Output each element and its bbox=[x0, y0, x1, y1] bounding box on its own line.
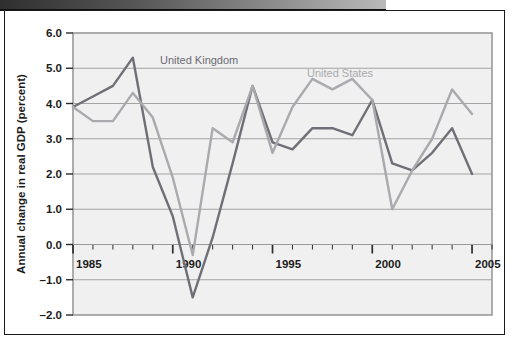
x-tick-label: 1985 bbox=[76, 258, 102, 270]
figure-root: 6.05.04.03.02.01.00.0–1.0–2.0 1985199019… bbox=[0, 0, 516, 344]
y-tick-label: 6.0 bbox=[46, 27, 62, 39]
x-tick-label: 1995 bbox=[276, 258, 302, 270]
y-axis-tick-labels: 6.05.04.03.02.01.00.0–1.0–2.0 bbox=[40, 27, 62, 321]
y-tick-label: 2.0 bbox=[46, 168, 62, 180]
y-tick-label: 5.0 bbox=[46, 62, 62, 74]
y-axis-ticks bbox=[66, 33, 73, 315]
x-tick-label: 2000 bbox=[375, 258, 401, 270]
x-tick-label: 2005 bbox=[475, 258, 501, 270]
y-tick-label: 4.0 bbox=[46, 98, 62, 110]
y-axis-title: Annual change in real GDP (percent) bbox=[15, 74, 27, 274]
x-tick-label: 1990 bbox=[176, 258, 202, 270]
y-tick-label: 0.0 bbox=[46, 239, 62, 251]
series-label-united-states: United States bbox=[307, 67, 374, 79]
y-tick-label: 1.0 bbox=[46, 203, 62, 215]
series-label-united-kingdom: United Kingdom bbox=[160, 54, 238, 66]
y-tick-label: –2.0 bbox=[40, 309, 62, 321]
y-tick-label: –1.0 bbox=[40, 274, 62, 286]
y-tick-label: 3.0 bbox=[46, 133, 62, 145]
chart-plot-area: 6.05.04.03.02.01.00.0–1.0–2.0 1985199019… bbox=[0, 0, 516, 344]
gdp-line-chart: 6.05.04.03.02.01.00.0–1.0–2.0 1985199019… bbox=[0, 0, 516, 344]
